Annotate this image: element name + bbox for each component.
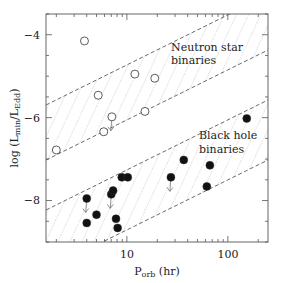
neutron-star-label-line2: binaries (171, 54, 216, 67)
neutron-star-point (131, 70, 139, 78)
black-hole-label: Black hole (199, 129, 257, 142)
neutron-star-point (52, 146, 60, 154)
neutron-star-point (151, 74, 159, 82)
black-hole-point (167, 173, 175, 181)
x-tick-label: 100 (218, 248, 239, 261)
y-tick-label: −8 (24, 194, 40, 207)
black-hole-point (243, 114, 251, 122)
black-hole-point (124, 173, 132, 181)
neutron-star-point (80, 37, 88, 45)
y-axis-label: log (Lmin/LEdd) (8, 89, 22, 168)
black-hole-point (206, 161, 214, 169)
chart-container: −4 −6 −8 10 100 Porb (hr) log (Lmin/LEdd… (0, 0, 282, 283)
black-hole-point (83, 219, 91, 227)
black-hole-point (109, 187, 117, 195)
neutron-star-point (141, 107, 149, 115)
black-hole-point (93, 211, 101, 219)
neutron-star-point (94, 91, 102, 99)
x-tick-label: 10 (120, 248, 134, 261)
y-tick-label: −6 (24, 112, 40, 125)
black-hole-point (203, 182, 211, 190)
black-hole-point (112, 215, 120, 223)
x-axis-label: Porb (hr) (134, 265, 180, 279)
black-hole-point (180, 156, 188, 164)
neutron-star-point (100, 128, 108, 136)
black-hole-point (114, 224, 122, 232)
black-hole-label-line2: binaries (199, 143, 244, 156)
scatter-plot: −4 −6 −8 10 100 Porb (hr) log (Lmin/LEdd… (0, 0, 282, 283)
black-hole-point (83, 194, 91, 202)
y-tick-label: −4 (24, 29, 40, 42)
neutron-star-label: Neutron star (171, 41, 244, 54)
neutron-star-point (108, 113, 116, 121)
